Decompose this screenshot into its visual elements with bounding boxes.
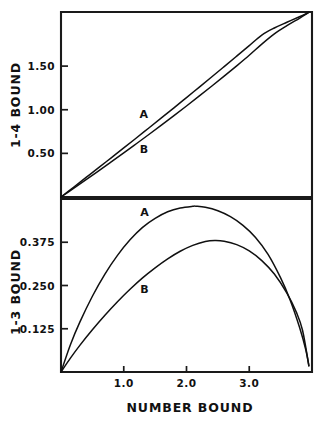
y-tick-label: 0.50 bbox=[27, 147, 55, 159]
y-tick-label: 0.250 bbox=[20, 280, 55, 292]
bottom-panel: 0.3750.2500.125 1.02.03.0 AB 1-3 BOUND N… bbox=[8, 199, 312, 415]
x-tick-label: 1.0 bbox=[114, 377, 134, 389]
bottom-panel-curves bbox=[61, 206, 309, 372]
curve-label-b: B bbox=[140, 283, 148, 296]
x-tick-label: 3.0 bbox=[239, 377, 259, 389]
y-tick-label: 1.00 bbox=[27, 104, 55, 116]
y-tick-label: 1.50 bbox=[27, 60, 55, 72]
curve-b bbox=[61, 12, 309, 197]
top-panel-y-tick-labels: 1.501.000.50 bbox=[27, 60, 55, 159]
bottom-panel-y-tick-labels: 0.3750.2500.125 bbox=[20, 236, 55, 335]
curve-label-a: A bbox=[140, 108, 149, 121]
bottom-panel-y-axis-title: 1-3 BOUND bbox=[8, 249, 23, 335]
two-panel-line-chart: 1.501.000.50 AB 1-4 BOUND 0.3750.2500.12… bbox=[0, 0, 327, 425]
curve-a bbox=[61, 12, 309, 197]
y-tick-label: 0.125 bbox=[20, 323, 55, 335]
top-panel-curves bbox=[61, 12, 309, 197]
top-panel-y-axis-title: 1-4 BOUND bbox=[8, 62, 23, 148]
curve-a bbox=[61, 206, 309, 372]
curve-label-a: A bbox=[140, 206, 149, 219]
curve-label-b: B bbox=[140, 143, 148, 156]
top-panel-frame bbox=[61, 12, 312, 197]
y-tick-label: 0.375 bbox=[20, 236, 55, 248]
top-panel: 1.501.000.50 AB 1-4 BOUND bbox=[8, 12, 312, 197]
bottom-panel-curve-labels: AB bbox=[140, 206, 149, 297]
x-axis-title: NUMBER BOUND bbox=[126, 400, 253, 415]
figure-container: 1.501.000.50 AB 1-4 BOUND 0.3750.2500.12… bbox=[0, 0, 327, 425]
x-tick-label: 2.0 bbox=[177, 377, 197, 389]
bottom-panel-x-tick-labels: 1.02.03.0 bbox=[114, 377, 259, 389]
